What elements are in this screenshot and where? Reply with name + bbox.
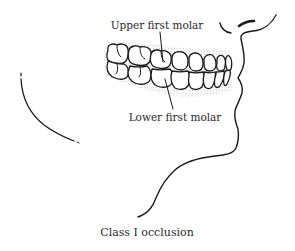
lower-molar-label: Lower first molar — [129, 111, 223, 123]
jaw-curve — [21, 79, 74, 141]
occlusion-diagram: Upper first molar Lower first molar Clas… — [0, 0, 295, 251]
brow-line — [220, 23, 231, 33]
upper-tooth — [204, 55, 216, 71]
upper-tooth — [189, 53, 203, 71]
upper-tooth — [172, 52, 188, 70]
lower-first-molar — [151, 69, 173, 87]
figure-caption: Class I occlusion — [100, 226, 194, 239]
jaw-curve-end — [77, 142, 79, 143]
lower-tooth — [189, 72, 204, 89]
upper-tooth — [226, 56, 232, 71]
nose-wing — [239, 21, 254, 26]
upper-molar-label: Upper first molar — [111, 19, 205, 31]
upper-tooth — [107, 44, 128, 63]
lower-tooth — [128, 66, 151, 84]
upper-tooth — [217, 55, 226, 71]
lower-tooth — [171, 71, 190, 89]
